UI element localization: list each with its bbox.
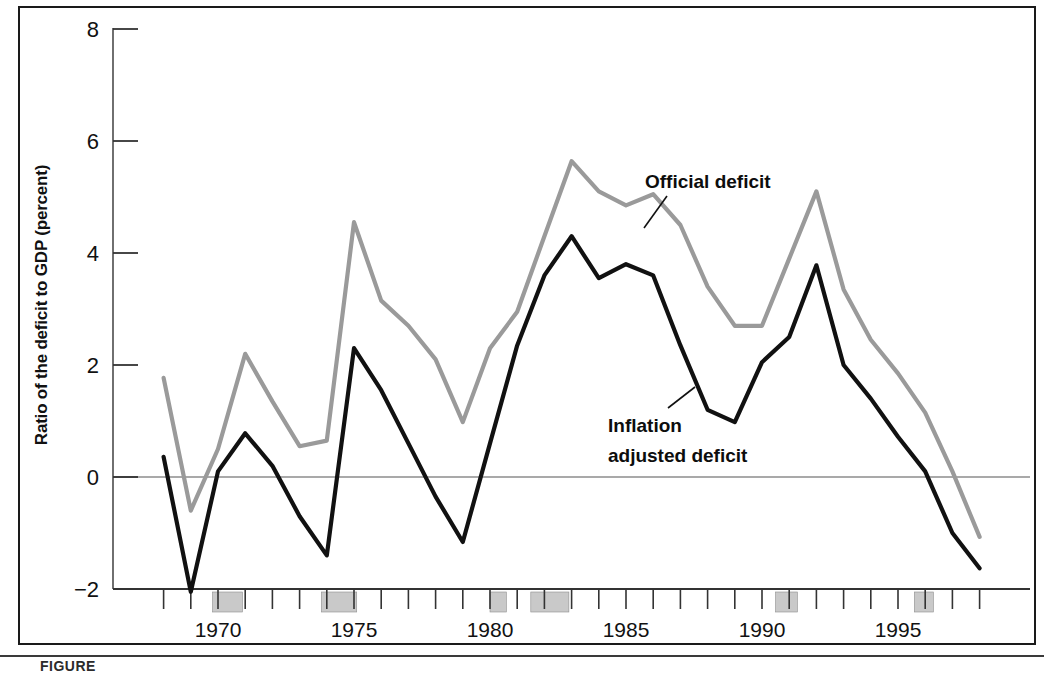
y-axis-tick-labels: −202468	[74, 17, 99, 602]
series-line-official-deficit	[164, 161, 980, 537]
x-tick-label: 1980	[467, 618, 514, 641]
y-tick-label: 4	[87, 241, 99, 266]
y-tick-label: 2	[87, 353, 99, 378]
y-tick-label: −2	[74, 577, 99, 602]
y-axis-ticks	[113, 29, 138, 589]
recession-band	[213, 592, 243, 612]
annotation-inflation-label-line2: adjusted deficit	[608, 445, 748, 466]
x-tick-label: 1970	[195, 618, 242, 641]
recession-bands-group	[213, 592, 934, 612]
series-line-inflation-adjusted-deficit	[164, 236, 980, 592]
x-tick-label: 1985	[603, 618, 650, 641]
annotation-inflation-adjusted-deficit: Inflation adjusted deficit	[608, 387, 748, 466]
recession-band	[914, 592, 933, 612]
leader-line-inflation	[668, 387, 695, 408]
annotation-inflation-label-line1: Inflation	[608, 415, 682, 436]
y-tick-label: 8	[87, 17, 99, 42]
y-tick-label: 0	[87, 465, 99, 490]
x-tick-label: 1990	[739, 618, 786, 641]
x-axis-ticks	[164, 589, 980, 609]
recession-band	[776, 592, 798, 612]
annotation-official-label: Official deficit	[645, 171, 771, 192]
x-axis-tick-labels: 197019751980198519901995	[195, 618, 922, 641]
figure-caption: FIGURE	[40, 658, 96, 674]
y-tick-label: 6	[87, 129, 99, 154]
axes-group	[113, 28, 1030, 589]
x-tick-label: 1995	[875, 618, 922, 641]
annotation-official-deficit: Official deficit	[644, 171, 771, 228]
leader-line-official	[644, 196, 667, 228]
recession-band	[531, 592, 569, 612]
data-series-group	[164, 161, 980, 592]
recession-band	[490, 592, 506, 612]
x-tick-label: 1975	[331, 618, 378, 641]
